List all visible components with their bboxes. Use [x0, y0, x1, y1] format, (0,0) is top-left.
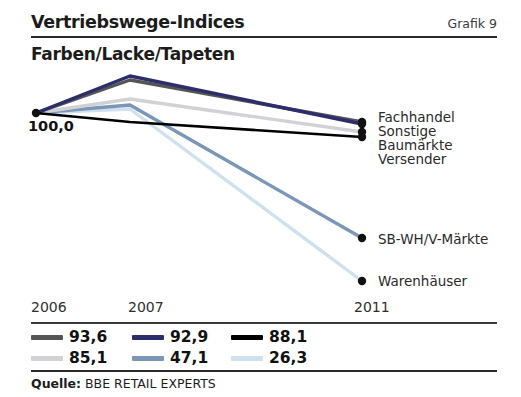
legend-swatch-icon — [31, 356, 63, 361]
source-label: Quelle: — [31, 376, 81, 391]
legend-value: 47,1 — [170, 349, 208, 367]
chart-subtitle: Farben/Lacke/Tapeten — [31, 44, 235, 64]
data-point-marker — [358, 133, 366, 141]
page-title: Vertriebswege-Indices — [31, 12, 244, 32]
legend-value: 88,1 — [269, 328, 307, 346]
chart-legend: 93,692,988,185,147,126,3 — [31, 330, 497, 368]
chart-page: Vertriebswege-Indices Grafik 9 Farben/La… — [0, 0, 521, 397]
legend-swatch-icon — [132, 356, 164, 361]
legend-value: 85,1 — [69, 349, 107, 367]
data-point-marker — [358, 120, 366, 128]
series-line — [36, 80, 362, 122]
legend-swatch-icon — [231, 356, 263, 361]
legend-value: 93,6 — [69, 328, 107, 346]
legend-bottom-divider — [31, 370, 497, 372]
legend-swatch-icon — [231, 335, 263, 340]
data-point-marker — [358, 277, 366, 285]
legend-swatch-icon — [132, 335, 164, 340]
legend-value: 26,3 — [269, 349, 307, 367]
legend-top-divider — [31, 322, 497, 324]
chart-header: Vertriebswege-Indices Grafik 9 — [31, 12, 497, 36]
header-divider — [31, 36, 497, 38]
figure-label: Grafik 9 — [447, 16, 497, 31]
data-point-marker — [358, 234, 366, 242]
source-note: Quelle: BBE RETAIL EXPERTS — [31, 376, 216, 391]
data-point-marker — [32, 109, 40, 117]
legend-swatch-icon — [31, 335, 63, 340]
source-value: BBE RETAIL EXPERTS — [85, 376, 216, 391]
legend-value: 92,9 — [170, 328, 208, 346]
